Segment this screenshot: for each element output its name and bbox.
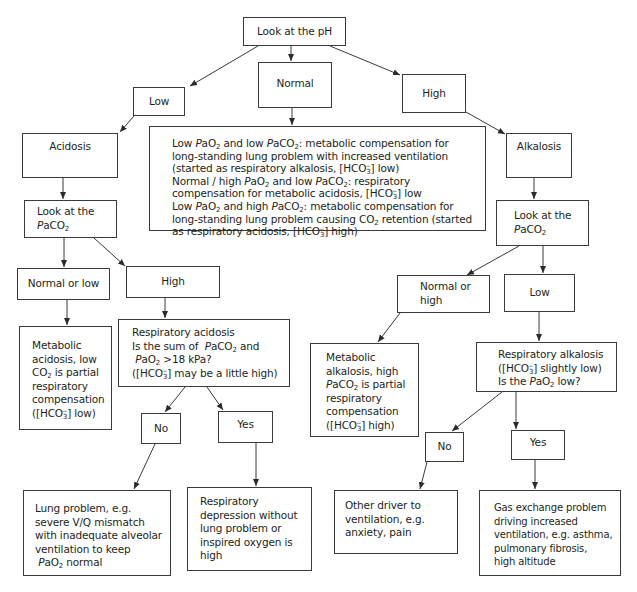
node-line-2: driving increased: [494, 515, 620, 529]
node-line-1: Look at the: [37, 205, 116, 219]
node-acidosis-yes: Yes: [218, 411, 273, 443]
explanation-line-1: Low PaO2 and low PaCO2: metabolic compen…: [172, 137, 485, 150]
node-acidosis-normal-or-low: Normal or low: [17, 268, 110, 300]
node-line-1: Look at the: [514, 209, 588, 223]
node-line-5: compensation: [326, 405, 418, 419]
node-label: Normal or low: [28, 277, 99, 291]
node-gas-exchange: Gas exchange problem driving increased v…: [479, 490, 621, 576]
node-metabolic-alkalosis: Metabolic alkalosis, high PaCO2 is parti…: [310, 343, 419, 437]
node-line-2: alkalosis, high: [326, 365, 418, 379]
node-line-4: ([HCO3−] may be a little high): [132, 367, 289, 381]
node-line-3: CO2 is partial: [32, 366, 111, 380]
node-label: Yes: [237, 418, 254, 432]
node-normal-explanation: Low PaO2 and low PaCO2: metabolic compen…: [149, 126, 486, 231]
node-label: Alkalosis: [517, 140, 561, 154]
node-alkalosis: Alkalosis: [506, 133, 572, 178]
node-line-4: ventilation to keep: [35, 543, 170, 557]
node-acidosis-high: High: [126, 266, 220, 298]
node-line-3: ventilation, e.g. asthma,: [494, 528, 620, 542]
node-line-3: lung problem or: [200, 522, 311, 536]
node-label: No: [154, 422, 168, 436]
node-line-2: PaCO2: [37, 219, 116, 233]
node-line-1: Gas exchange problem: [494, 501, 620, 515]
node-line-1: Other driver to: [345, 499, 457, 513]
explanation-line-5: compensation for metabolic acidosis, [HC…: [172, 187, 485, 200]
node-line-4: inspired oxygen is: [200, 536, 311, 550]
node-line-1: Respiratory acidosis: [132, 326, 289, 340]
node-line-6: ([HCO3−] low): [32, 407, 111, 421]
node-line-4: respiratory: [326, 392, 418, 406]
node-label: Low: [149, 95, 169, 109]
explanation-line-2: long-standing lung problem with increase…: [172, 150, 485, 163]
explanation-line-7: long-standing lung problem causing CO2 r…: [172, 213, 485, 226]
node-line-2: ([HCO3−] slightly low): [498, 362, 616, 376]
node-look-at-ph: Look at the pH: [243, 17, 346, 46]
node-line-2: Is the sum of PaCO2 and: [132, 340, 289, 354]
node-label: High: [422, 87, 446, 101]
node-ph-low: Low: [133, 87, 185, 116]
node-alkalosis-normal-or-high: Normal or high: [397, 275, 490, 313]
node-respiratory-acidosis: Respiratory acidosis Is the sum of PaCO2…: [118, 319, 290, 387]
node-line-3: with inadequate alveolar: [35, 529, 170, 543]
node-line-5: compensation: [32, 393, 111, 407]
node-label: Look at the pH: [257, 25, 332, 39]
node-line-1: Respiratory alkalosis: [498, 348, 616, 362]
node-alkalosis-look-paco2: Look at the PaCO2: [496, 200, 589, 246]
node-line-3: PaCO2 is partial: [326, 378, 418, 392]
node-alkalosis-no: No: [425, 432, 464, 462]
node-acidosis-no: No: [141, 413, 181, 444]
node-line-1: Metabolic: [326, 351, 418, 365]
node-line-4: respiratory: [32, 380, 111, 394]
node-label: Acidosis: [49, 140, 90, 154]
explanation-line-6: Low PaO2 and high PaCO2: metabolic compe…: [172, 200, 485, 213]
node-line-1: Lung problem, e.g.: [35, 502, 170, 516]
node-ph-high: High: [402, 74, 466, 113]
node-line-1: Metabolic: [32, 339, 111, 353]
node-label: Normal: [276, 77, 313, 91]
node-respiratory-depression: Respiratory depression without lung prob…: [187, 487, 312, 571]
node-line-5: high altitude: [494, 555, 620, 569]
explanation-line-4: Normal / high PaO2 and low PaCO2: respir…: [172, 175, 485, 188]
explanation-line-3: (started as respiratory alkalosis, [HCO3…: [172, 162, 485, 175]
node-line-2: high: [420, 294, 489, 308]
node-alkalosis-yes: Yes: [511, 430, 565, 460]
node-label: High: [161, 275, 185, 289]
node-metabolic-acidosis: Metabolic acidosis, low CO2 is partial r…: [19, 326, 112, 430]
node-line-2: severe V/Q mismatch: [35, 516, 170, 530]
node-label: Low: [529, 286, 549, 300]
node-line-5: PaO2 normal: [35, 556, 170, 570]
node-acidosis: Acidosis: [22, 133, 118, 178]
node-line-2: ventilation, e.g.: [345, 513, 457, 527]
node-other-driver: Other driver to ventilation, e.g. anxiet…: [334, 490, 458, 554]
node-label: Yes: [530, 436, 547, 450]
node-line-6: ([HCO3−] high): [326, 419, 418, 433]
node-line-3: anxiety, pain: [345, 526, 457, 540]
node-line-5: high: [200, 549, 311, 563]
node-line-2: PaCO2: [514, 223, 588, 237]
node-label: No: [438, 440, 452, 454]
node-line-2: depression without: [200, 509, 311, 523]
node-line-1: Normal or: [420, 280, 489, 294]
node-line-3: PaO2 >18 kPa?: [132, 353, 289, 367]
node-lung-problem: Lung problem, e.g. severe V/Q mismatch w…: [23, 490, 171, 576]
node-line-4: pulmonary fibrosis,: [494, 542, 620, 556]
node-ph-normal: Normal: [258, 62, 332, 108]
node-line-3: Is the PaO2 low?: [498, 375, 616, 389]
node-acidosis-look-paco2: Look at the PaCO2: [24, 200, 117, 238]
node-line-1: Respiratory: [200, 495, 311, 509]
node-alkalosis-low: Low: [504, 274, 575, 312]
node-line-2: acidosis, low: [32, 353, 111, 367]
explanation-line-8: as respiratory acidosis, [HCO3−] high): [172, 225, 485, 238]
node-respiratory-alkalosis: Respiratory alkalosis ([HCO3−] slightly …: [476, 342, 617, 392]
